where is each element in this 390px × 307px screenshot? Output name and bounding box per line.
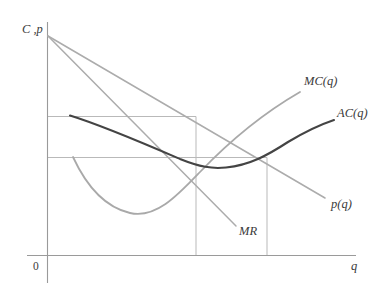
y-axis-label: C ,p	[22, 22, 43, 36]
average-cost-curve	[70, 116, 334, 168]
marginal-cost-curve	[73, 92, 300, 214]
x-axis-label: q	[351, 259, 357, 273]
guide-lines-group	[47, 117, 267, 256]
demand-curve-label: p(q)	[330, 197, 352, 211]
marginal-cost-label: MC(q)	[303, 74, 337, 88]
economics-diagram: C ,p q 0 MC(q) AC(q) p(q) MR	[0, 0, 390, 307]
marginal-revenue-line	[48, 36, 236, 226]
marginal-revenue-label: MR	[238, 224, 257, 238]
origin-label: 0	[33, 260, 39, 272]
average-cost-label: AC(q)	[336, 106, 368, 120]
axes-group	[27, 22, 356, 283]
chart-canvas: C ,p q 0 MC(q) AC(q) p(q) MR	[0, 0, 390, 307]
